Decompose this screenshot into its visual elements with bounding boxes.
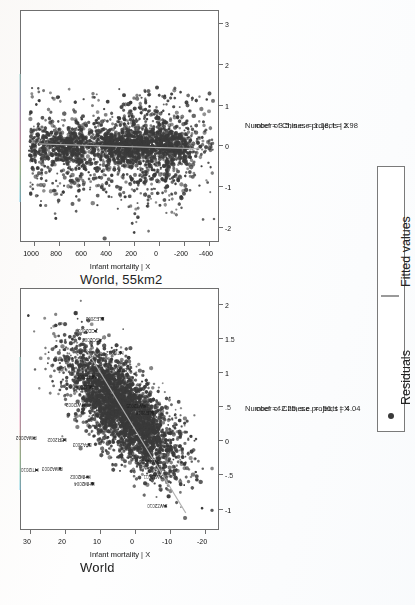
point-label: KHM2004 — [74, 481, 94, 486]
x-tick-mark — [219, 105, 223, 106]
x-tick-mark — [219, 372, 223, 373]
x-tick-label: 1.5 — [225, 336, 235, 343]
x-tick-label: 2 — [225, 62, 229, 69]
point-label: RWA2002 — [16, 435, 37, 440]
x-tick-mark — [219, 145, 223, 146]
y-tick-label: 1000 — [23, 250, 39, 257]
point-label: AGO2003 — [82, 338, 102, 343]
x-tick-label: .5 — [225, 404, 231, 411]
point-label: NER2006 — [76, 374, 96, 379]
point-label: SLE2016 — [136, 410, 155, 415]
y-tick-label: -10 — [162, 538, 172, 545]
legend-marker-residuals — [388, 413, 394, 419]
x-tick-label: -2 — [225, 225, 231, 232]
y-tick-mark — [184, 242, 185, 246]
y-tick-mark — [84, 242, 85, 246]
point-label: SLE2003 — [86, 316, 105, 321]
figure-page: World, 55km2-2-10123Number of Chinese pr… — [0, 0, 415, 605]
x-tick-mark — [219, 406, 223, 407]
y-tick-mark — [30, 530, 31, 534]
x-tick-mark — [219, 186, 223, 187]
y-tick-label: 200 — [125, 250, 137, 257]
point-label: BFA2003 — [73, 442, 92, 447]
point-label: SWZ2015 — [126, 403, 146, 408]
x-tick-mark — [219, 23, 223, 24]
x-tick-mark — [219, 64, 223, 65]
point-label: LBR2002 — [48, 437, 67, 442]
point-label: SWZ2011 — [143, 474, 163, 479]
y-tick-mark — [135, 530, 136, 534]
x-tick-label: -.5 — [225, 472, 233, 479]
y-tick-label: 30 — [24, 538, 32, 545]
y-tick-label: 600 — [75, 250, 87, 257]
y-tick-label: -200 — [174, 250, 188, 257]
legend: Residuals Fitted values — [377, 166, 405, 432]
point-label: SWZ2006 — [139, 459, 159, 464]
legend-label-fitted: Fitted values — [399, 216, 413, 287]
point-label: SLB2002 — [114, 367, 133, 372]
y-tick-mark — [134, 242, 135, 246]
point-label: MWI2002 — [66, 402, 86, 407]
y-tick-mark — [100, 530, 101, 534]
point-label: HTI2010 — [21, 467, 39, 472]
x-tick-label: -1 — [225, 184, 231, 191]
x-tick-label: -1 — [225, 507, 231, 514]
regression-annotation: coef = 3.5, s.e. = 1.18, t = 2.98 — [256, 121, 358, 130]
y-axis-label: Infant mortality | X — [89, 550, 149, 559]
y-tick-label: 400 — [100, 250, 112, 257]
y-tick-label: 20 — [58, 538, 66, 545]
x-tick-mark — [219, 440, 223, 441]
point-label: SWZ2010 — [147, 503, 167, 508]
x-tick-mark — [219, 338, 223, 339]
y-tick-label: -20 — [197, 538, 207, 545]
y-tick-mark — [109, 242, 110, 246]
regression-annotation: coef = -2.25, s.e. = .56, t = 4.04 — [256, 404, 360, 413]
legend-marker-fitted — [381, 295, 399, 297]
y-tick-mark — [65, 530, 66, 534]
x-tick-mark — [219, 474, 223, 475]
x-tick-label: 2 — [225, 302, 229, 309]
point-label: HTI2012 — [105, 350, 123, 355]
x-tick-label: 1 — [225, 103, 229, 110]
y-tick-mark — [59, 242, 60, 246]
x-tick-label: 1 — [225, 370, 229, 377]
y-tick-mark — [170, 530, 171, 534]
y-tick-mark — [209, 242, 210, 246]
legend-label-residuals: Residuals — [399, 350, 413, 405]
x-tick-mark — [219, 227, 223, 228]
y-tick-label: 0 — [154, 250, 158, 257]
point-label: MLI2006 — [75, 384, 93, 389]
x-tick-mark — [219, 509, 223, 510]
y-tick-mark — [159, 242, 160, 246]
y-tick-mark — [205, 530, 206, 534]
x-tick-label: 0 — [225, 143, 229, 150]
x-tick-mark — [219, 304, 223, 305]
point-label: KHM2002 — [70, 474, 90, 479]
y-tick-label: 10 — [93, 538, 101, 545]
y-tick-mark — [34, 242, 35, 246]
point-label: RWA2003 — [42, 466, 63, 471]
y-axis-label: Infant mortality | X — [89, 262, 149, 271]
y-tick-label: -400 — [199, 250, 213, 257]
x-tick-label: 3 — [225, 21, 229, 28]
y-tick-label: 800 — [50, 250, 62, 257]
y-tick-label: 0 — [130, 538, 134, 545]
point-label: TCD2003 — [78, 328, 98, 333]
x-tick-label: 0 — [225, 438, 229, 445]
